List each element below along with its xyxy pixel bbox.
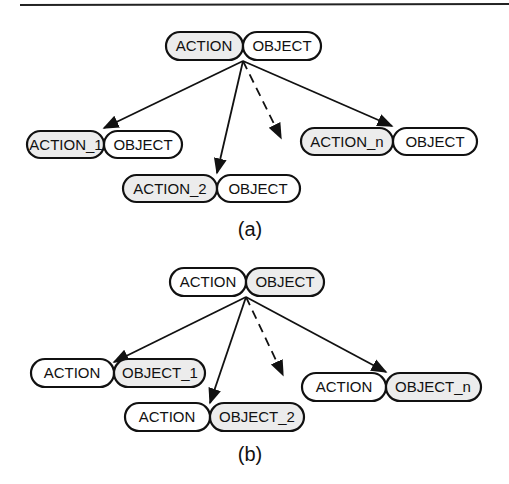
arrow-to-child-n [246, 297, 386, 372]
caption-b: (b) [238, 443, 262, 465]
action-label: ACTION [139, 408, 196, 425]
child-node-a-2: ACTION_2 OBJECT [123, 175, 300, 202]
arrow-to-child-1 [104, 61, 243, 128]
object-label: OBJECT [405, 133, 464, 150]
object-label: OBJECT_2 [219, 408, 295, 425]
child-node-b-2: ACTION OBJECT_2 [125, 403, 304, 431]
arrow-ellipsis [243, 61, 281, 138]
object-label: OBJECT_1 [122, 364, 198, 381]
diagram-canvas: ACTION OBJECT ACTION_1 OBJECT ACTION_2 O… [0, 0, 509, 484]
object-label: OBJECT [255, 273, 314, 290]
child-node-b-n: ACTION OBJECT_n [302, 373, 481, 401]
action-label: ACTION [44, 364, 101, 381]
object-label: OBJECT_n [395, 378, 471, 395]
object-label: OBJECT [228, 180, 287, 197]
child-node-a-n: ACTION_n OBJECT [301, 128, 477, 155]
child-node-b-1: ACTION OBJECT_1 [31, 359, 205, 387]
object-label: OBJECT [252, 37, 311, 54]
action-label: ACTION [176, 37, 233, 54]
action-label: ACTION_n [310, 133, 383, 150]
caption-a: (a) [238, 218, 262, 240]
action-label: ACTION [180, 273, 237, 290]
root-node-b: ACTION OBJECT [170, 268, 324, 296]
root-node-a: ACTION OBJECT [166, 32, 321, 60]
action-label: ACTION_1 [29, 136, 102, 153]
action-label: ACTION [316, 378, 373, 395]
top-rule [20, 4, 509, 5]
object-label: OBJECT [113, 136, 172, 153]
arrow-to-child-n [243, 61, 392, 126]
arrow-to-child-1 [114, 297, 246, 362]
panel-a: ACTION OBJECT ACTION_1 OBJECT ACTION_2 O… [27, 32, 477, 240]
action-label: ACTION_2 [133, 180, 206, 197]
panel-b: ACTION OBJECT ACTION OBJECT_1 ACTION OBJ… [31, 268, 481, 465]
arrow-to-child-2 [217, 61, 243, 173]
arrow-ellipsis [246, 297, 283, 375]
child-node-a-1: ACTION_1 OBJECT [27, 131, 182, 158]
